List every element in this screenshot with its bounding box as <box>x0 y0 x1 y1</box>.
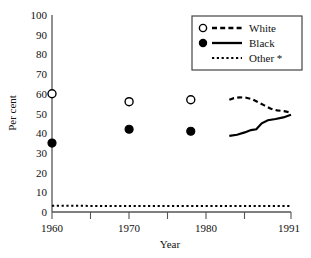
y-tick-label: 100 <box>31 9 48 21</box>
data-point-filled-circle <box>125 125 133 133</box>
x-axis-tick-labels: 1960 1970 1980 1991 <box>41 222 300 234</box>
y-tick-label: 40 <box>36 127 48 139</box>
y-axis-tick-labels: 100 90 80 70 60 50 40 30 20 10 0 <box>31 9 48 218</box>
y-tick-label: 80 <box>36 48 48 60</box>
legend-label-other: Other * <box>249 52 282 64</box>
series-white-markers <box>48 90 195 106</box>
data-point-filled-circle <box>48 139 56 147</box>
x-axis-title: Year <box>160 238 181 250</box>
data-point-open-circle <box>48 90 56 98</box>
series-black-markers <box>48 125 195 147</box>
filled-circle-icon <box>199 39 206 46</box>
series-white <box>48 90 291 113</box>
legend-box <box>192 16 302 70</box>
y-tick-label: 70 <box>36 68 48 80</box>
x-axis-tick-marks <box>52 212 291 219</box>
y-tick-label: 60 <box>36 88 48 100</box>
series-black <box>48 115 291 147</box>
chart-svg: 100 90 80 70 60 50 40 30 20 10 0 1960 19… <box>0 0 311 258</box>
chart-legend[interactable]: White Black Other * <box>192 16 302 70</box>
y-tick-label: 0 <box>42 206 48 218</box>
y-axis-title: Per cent <box>6 95 18 131</box>
chart-container: 100 90 80 70 60 50 40 30 20 10 0 1960 19… <box>0 0 311 258</box>
y-tick-label: 20 <box>36 167 48 179</box>
y-tick-label: 30 <box>36 147 48 159</box>
data-point-filled-circle <box>187 127 195 135</box>
x-tick-label: 1960 <box>41 222 64 234</box>
series-black-line <box>229 115 291 136</box>
y-tick-label: 10 <box>36 186 48 198</box>
x-tick-label: 1970 <box>118 222 141 234</box>
open-circle-icon <box>199 24 206 31</box>
y-tick-label: 90 <box>36 29 48 41</box>
legend-label-white: White <box>249 22 276 34</box>
data-point-open-circle <box>125 98 133 106</box>
y-tick-label: 50 <box>36 108 48 120</box>
x-tick-label: 1991 <box>278 222 300 234</box>
legend-label-black: Black <box>249 37 275 49</box>
series-white-line <box>229 97 291 112</box>
data-point-open-circle <box>187 96 195 104</box>
x-tick-label: 1980 <box>195 222 218 234</box>
